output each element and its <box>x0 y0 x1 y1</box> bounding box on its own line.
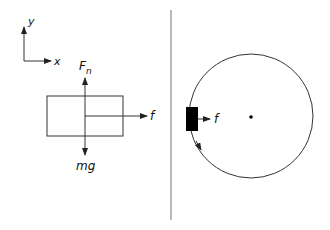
black-block <box>186 107 198 131</box>
physics-diagram: y x Fn mg f f <box>0 0 330 230</box>
weight-label: mg <box>76 159 96 173</box>
friction-label: f <box>150 109 156 123</box>
coordinate-axes: y x <box>24 15 61 68</box>
y-axis-label: y <box>27 15 35 28</box>
normal-force-label: Fn <box>79 59 92 76</box>
free-body-diagram: Fn mg f <box>47 59 156 173</box>
circular-motion-diagram: f <box>186 54 313 178</box>
x-axis-label: x <box>53 55 61 68</box>
center-dot <box>249 115 253 119</box>
circle-friction-label: f <box>214 112 220 126</box>
